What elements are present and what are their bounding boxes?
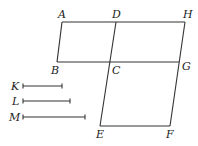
label-K: K <box>10 80 20 93</box>
point-labels: A D H B C G E F <box>50 8 193 141</box>
label-D: D <box>111 8 121 21</box>
label-E: E <box>95 128 104 141</box>
line-AB <box>57 22 62 62</box>
line-HF <box>170 22 185 126</box>
geometry-figure: A D H B C G E F K L M <box>0 0 198 146</box>
label-A: A <box>57 8 66 21</box>
label-F: F <box>165 128 174 141</box>
reference-segments: K L M <box>8 80 85 124</box>
label-C: C <box>112 64 121 77</box>
parallelogram-lines <box>57 22 185 126</box>
label-L: L <box>11 95 19 108</box>
label-G: G <box>182 60 191 73</box>
label-M: M <box>8 111 21 124</box>
label-H: H <box>182 8 193 21</box>
label-B: B <box>50 64 59 77</box>
